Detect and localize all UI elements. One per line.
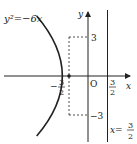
curve-label: y²=−6x — [3, 13, 43, 24]
directrix-num: 3 — [128, 121, 133, 130]
directrix-den: 2 — [128, 132, 133, 141]
x-axis-label: x — [126, 81, 131, 91]
tick-y-3: 3 — [91, 33, 97, 43]
directrix-label-prefix: x= — [110, 125, 123, 135]
y-axis-label: y — [77, 9, 84, 19]
tick-x-pos-den: 2 — [110, 88, 115, 97]
focus-point — [67, 74, 71, 78]
parabola-diagram: y²=−6x y x O 3 −3 − 3 2 3 2 x= 3 2 — [0, 0, 137, 144]
tick-x-neg-den: 2 — [59, 88, 64, 97]
origin-label: O — [90, 79, 97, 89]
tick-y-neg3: −3 — [90, 111, 104, 121]
tick-x-pos-num: 3 — [110, 78, 115, 87]
tick-x-neg-sign: − — [50, 81, 58, 91]
tick-x-neg-num: 3 — [59, 78, 64, 87]
